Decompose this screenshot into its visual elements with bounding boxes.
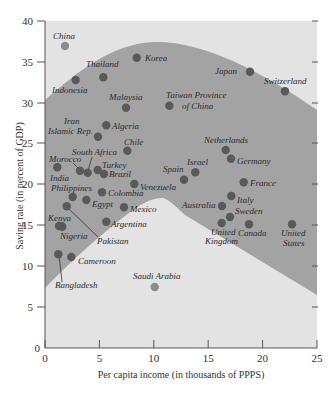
label-us-line2: States (283, 238, 305, 248)
label-japan: Japan (215, 66, 237, 76)
label-cameroon: Cameroon (78, 256, 116, 266)
point-nigeria (58, 223, 66, 231)
label-brazil: Brazil (109, 169, 132, 179)
label-israel: Israel (186, 157, 208, 167)
label-france: France (249, 178, 276, 188)
point-bangladesh (54, 250, 62, 258)
point-israel (191, 168, 199, 176)
point-italy (227, 192, 235, 200)
label-australia: Australia (181, 200, 216, 210)
label-iran-line1: Iran (63, 116, 80, 126)
y-tick-label: 0 (35, 342, 41, 354)
label-argentina: Argentina (110, 219, 147, 229)
x-tick-label: 0 (42, 352, 48, 364)
x-tick-label: 5 (97, 352, 103, 364)
point-colombia (98, 188, 106, 196)
label-uk-line2: Kingdom (204, 236, 239, 246)
label-canada: Canada (238, 228, 267, 238)
label-china: China (53, 31, 76, 41)
y-axis-title: Saving rate (in percent of GDP) (14, 122, 26, 249)
point-australia (218, 202, 226, 210)
y-tick-label: 5 (28, 301, 34, 313)
label-korea: Korea (144, 53, 168, 63)
label-germany: Germany (237, 156, 271, 166)
x-tick-labels: 0 5 10 15 20 25 (42, 352, 323, 364)
label-algeria: Algeria (111, 121, 139, 131)
label-morocco: Morocco (48, 154, 82, 164)
point-saudi-arabia (151, 283, 159, 291)
point-taiwan (165, 102, 173, 110)
point-chile (123, 147, 131, 155)
x-tick-label: 20 (257, 352, 269, 364)
point-netherlands (222, 146, 230, 154)
label-taiwan-line1: Taiwan Province (166, 90, 227, 100)
point-korea (133, 54, 141, 62)
point-argentina (102, 218, 110, 226)
label-philippines: Philippines (50, 183, 92, 193)
point-thailand (99, 73, 107, 81)
label-italy: Italy (236, 195, 254, 205)
label-egypt: Egypt (91, 199, 113, 209)
label-india: India (49, 173, 69, 183)
point-morocco (76, 167, 84, 175)
y-tick-label: 30 (22, 97, 34, 109)
point-south-africa (84, 169, 92, 177)
y-tick-label: 35 (22, 56, 34, 68)
point-brazil (100, 170, 108, 178)
y-tick-label: 10 (22, 260, 34, 272)
point-cameroon (67, 253, 75, 261)
point-spain (180, 176, 188, 184)
label-switzerland: Switzerland (264, 76, 307, 86)
point-pakistan (62, 202, 70, 210)
label-us-line1: United (281, 228, 306, 238)
x-tick-label: 10 (148, 352, 160, 364)
label-spain: Spain (163, 164, 184, 174)
point-algeria (102, 121, 110, 129)
label-colombia: Colombia (108, 188, 144, 198)
label-iran-line2: Islamic Rep. (47, 126, 93, 136)
label-saudi-arabia: Saudi Arabia (133, 271, 181, 281)
x-axis-title: Per capita income (in thousands of PPPS) (98, 369, 265, 381)
label-mexico: Mexico (129, 204, 157, 214)
point-venezuela (130, 180, 138, 188)
point-japan (246, 68, 254, 76)
label-kenya: Kenya (47, 213, 71, 223)
point-united-kingdom (218, 219, 226, 227)
x-tick-label: 25 (312, 352, 324, 364)
point-malaysia (122, 104, 130, 112)
point-iran (94, 133, 102, 141)
label-taiwan-line2: of China (182, 101, 214, 111)
label-venezuela: Venezuela (140, 182, 176, 192)
point-switzerland (281, 87, 289, 95)
point-france (240, 178, 248, 186)
x-tick-label: 15 (203, 352, 215, 364)
label-bangladesh: Bangladesh (55, 280, 98, 290)
scatter-chart: 40 35 30 25 20 15 10 5 0 0 5 10 15 20 25… (0, 0, 336, 398)
label-indonesia: Indonesia (51, 85, 88, 95)
label-chile: Chile (124, 137, 144, 147)
label-netherlands: Netherlands (203, 135, 248, 145)
point-sweden (226, 213, 234, 221)
point-germany (227, 155, 235, 163)
y-tick-label: 40 (22, 15, 34, 27)
point-egypt (82, 196, 90, 204)
label-thailand: Thailand (86, 59, 119, 69)
label-sweden: Sweden (235, 206, 263, 216)
label-malaysia: Malaysia (108, 92, 143, 102)
point-mexico (120, 203, 128, 211)
label-pakistan: Pakistan (96, 236, 129, 246)
point-china (61, 42, 69, 50)
point-philippines (69, 193, 77, 201)
point-indonesia (72, 76, 80, 84)
point-india (53, 163, 61, 171)
label-nigeria: Nigeria (59, 231, 88, 241)
